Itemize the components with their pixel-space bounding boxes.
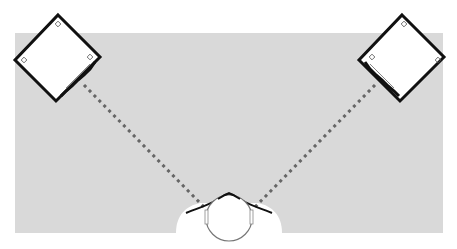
- speaker-placement-diagram: [0, 0, 457, 249]
